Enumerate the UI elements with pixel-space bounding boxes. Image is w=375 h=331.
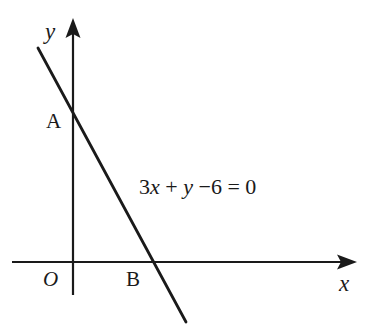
x-axis-label: x <box>339 272 349 295</box>
equation-coefficient: 3 <box>139 174 150 199</box>
line-equation-label: 3x + y −6 = 0 <box>117 154 256 220</box>
equation-x-variable: x <box>150 174 160 199</box>
point-label-a: A <box>46 111 61 132</box>
equation-y-variable: y <box>183 174 193 199</box>
geometry-figure: y x O A B 3x + y −6 = 0 <box>0 0 375 331</box>
equation-equals-sign: = <box>227 174 239 199</box>
equation-minus-sign: − <box>198 174 210 199</box>
equation-plus-sign: + <box>165 174 177 199</box>
origin-label: O <box>43 269 58 290</box>
equation-zero: 0 <box>245 174 256 199</box>
point-label-b: B <box>126 269 140 290</box>
equation-constant: 6 <box>211 174 222 199</box>
y-axis-label: y <box>45 20 55 43</box>
